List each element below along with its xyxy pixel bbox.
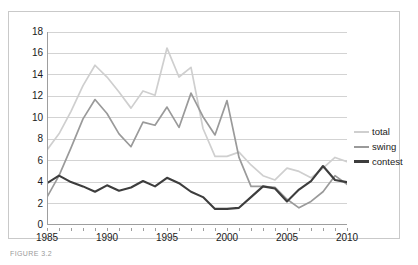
y-tick-label: 8 [21,134,43,144]
x-tick-mark [71,228,72,231]
legend-swatch-contest [354,160,369,163]
x-tick-mark [143,228,144,231]
figure-caption: FIGURE 3.2 [10,250,130,262]
y-tick-label: 6 [21,156,43,166]
x-tick-mark [311,228,312,231]
x-tick-mark [203,228,204,231]
x-tick-mark [335,228,336,231]
figure-container: 024681012141618 198519901995200020052010… [0,0,418,265]
x-axis: 198519901995200020052010 [47,228,347,244]
legend-swatch-total [354,131,369,133]
x-tick-mark [227,228,228,231]
axis-lines [47,32,347,225]
legend-label-contest: contest [372,157,403,167]
y-tick-label: 18 [21,27,43,37]
y-axis: 024681012141618 [19,32,43,225]
x-tick-mark [107,228,108,231]
y-tick-label: 0 [21,220,43,230]
x-tick-mark [119,228,120,231]
x-tick-mark [323,228,324,231]
x-tick-mark [275,228,276,231]
gridlines [47,32,347,225]
y-tick-label: 14 [21,70,43,80]
y-tick-label: 2 [21,199,43,209]
x-tick-mark [167,228,168,231]
x-tick-label: 2005 [267,232,307,243]
y-tick-label: 12 [21,91,43,101]
y-tick-label: 4 [21,177,43,187]
x-tick-mark [215,228,216,231]
legend-item-total: total [354,124,410,139]
x-tick-label: 1985 [27,232,67,243]
legend-label-swing: swing [372,142,396,152]
legend-item-contest: contest [354,154,410,169]
x-tick-label: 2000 [207,232,247,243]
x-tick-label: 1995 [147,232,187,243]
x-tick-mark [239,228,240,231]
x-tick-mark [155,228,156,231]
legend-label-total: total [372,127,390,137]
x-tick-mark [287,228,288,231]
y-tick-label: 16 [21,48,43,58]
x-tick-mark [47,228,48,231]
x-tick-label: 2010 [327,232,367,243]
legend-item-swing: swing [354,139,410,154]
x-tick-mark [299,228,300,231]
legend-swatch-swing [354,146,369,148]
series-lines [47,48,347,209]
x-tick-mark [83,228,84,231]
x-tick-mark [251,228,252,231]
x-tick-mark [95,228,96,231]
x-tick-mark [131,228,132,231]
chart-legend: totalswingcontest [354,124,410,170]
x-tick-mark [191,228,192,231]
x-tick-mark [347,228,348,231]
x-tick-mark [179,228,180,231]
x-tick-mark [263,228,264,231]
y-tick-label: 10 [21,113,43,123]
x-tick-mark [59,228,60,231]
plot-area [47,32,347,225]
chart-plot-svg [47,32,347,225]
x-tick-label: 1990 [87,232,127,243]
chart-frame: 024681012141618 198519901995200020052010… [8,11,400,239]
